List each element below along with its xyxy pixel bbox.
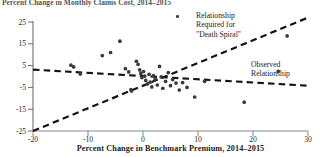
- scatter-point: [185, 86, 189, 90]
- scatter-point: [72, 65, 76, 69]
- scatter-point: [147, 72, 151, 76]
- observed-annotation-line-1: Observed: [251, 60, 290, 69]
- y-tick-label: 15: [4, 39, 26, 48]
- scatter-point: [159, 75, 163, 79]
- scatter-point: [127, 70, 131, 74]
- scatter-point: [153, 77, 157, 81]
- observed-annotation-line-2: Relationship: [251, 69, 290, 78]
- x-tick-label: 0: [128, 135, 158, 144]
- scatter-point: [152, 74, 156, 78]
- death-spiral-annotation: Relationship Required for "Death Spiral": [196, 11, 241, 39]
- x-tick-label: 20: [238, 135, 268, 144]
- x-tick-label: 30: [293, 135, 320, 144]
- scatter-point: [144, 79, 148, 83]
- scatter-point: [118, 39, 122, 43]
- plot-area: 25 15 5 -5 -15 -25 -20 -10 0 10 20 30 Pe…: [0, 0, 320, 157]
- scatter-point: [161, 86, 165, 90]
- scatter-point: [203, 79, 207, 83]
- y-tick-label: 5: [4, 61, 26, 70]
- scatter-point: [177, 88, 181, 92]
- scatter-point: [164, 79, 168, 83]
- y-tick-label: 25: [4, 18, 26, 27]
- scatter-point: [169, 84, 173, 88]
- scatter-point: [174, 81, 178, 85]
- scatter-point: [166, 71, 170, 75]
- scatter-point: [285, 34, 289, 38]
- x-tick-label: -20: [18, 135, 48, 144]
- scatter-point: [109, 51, 113, 55]
- death-spiral-annotation-line-2: Required for: [196, 20, 241, 29]
- scatter-point: [138, 68, 142, 72]
- scatter-point: [142, 70, 146, 74]
- scatter-point: [143, 74, 147, 78]
- scatter-point: [155, 83, 159, 87]
- x-tick-label: -10: [73, 135, 103, 144]
- scatter-point: [150, 85, 154, 89]
- scatter-point: [100, 54, 104, 58]
- scatter-point: [78, 72, 82, 76]
- scatter-point: [181, 81, 185, 85]
- x-tick-label: 10: [183, 135, 213, 144]
- scatter-point: [242, 100, 246, 104]
- scatter-point: [171, 78, 175, 82]
- scatter-point: [136, 62, 140, 66]
- y-tick-label: -15: [4, 105, 26, 114]
- scatter-point: [148, 80, 152, 84]
- scatter-point: [124, 67, 128, 71]
- scatter-point: [158, 65, 162, 69]
- y-tick-label: -5: [4, 83, 26, 92]
- scatter-point: [130, 89, 134, 93]
- chart-figure: Percent Change in Monthly Claims Cost, 2…: [0, 0, 320, 157]
- legend-marker-swatch: [176, 15, 179, 18]
- y-tick-marks: [28, 22, 33, 131]
- death-spiral-annotation-line-3: "Death Spiral": [196, 30, 241, 39]
- x-axis-label: Percent Change in Benchmark Premium, 201…: [33, 144, 308, 153]
- death-spiral-annotation-line-1: Relationship: [196, 11, 241, 20]
- scatter-point: [193, 95, 197, 99]
- observed-annotation: Observed Relationship: [251, 60, 290, 79]
